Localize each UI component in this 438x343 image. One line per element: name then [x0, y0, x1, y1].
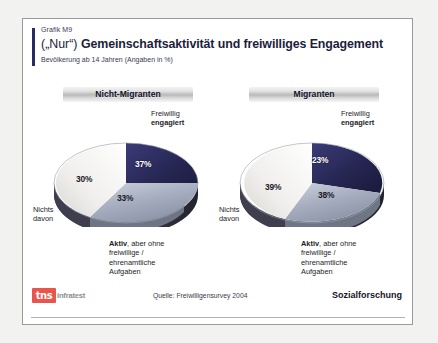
- callout-aktiv-rest: , aber ohne: [127, 239, 164, 248]
- page-title-main: Gemeinschaftsaktivität und freiwilliges …: [81, 37, 383, 51]
- callout-line-2: davon: [219, 214, 240, 223]
- chart-number-label: Grafik M9: [41, 26, 72, 33]
- source-note: Quelle: Freiwilligensurvey 2004: [153, 292, 247, 299]
- callout-aktiv: Aktiv, aber ohne freiwillige / ehrenamtl…: [109, 239, 164, 277]
- slice-value-aktiv: 38%: [318, 190, 334, 200]
- slice-value-freiwillig: 23%: [312, 155, 328, 165]
- tns-logo-text: tns: [36, 291, 53, 301]
- page-subtitle: Bevölkerung ab 14 Jahren (Angaben in %): [41, 56, 173, 63]
- panel-migranten: Migranten: [219, 87, 405, 277]
- pie-svg: [47, 127, 205, 227]
- chart-header: Grafik M9 („Nur“) Gemeinschaftsaktivität…: [32, 26, 406, 70]
- callout-freiwillig-engagiert: Freiwillig engagiert: [151, 109, 184, 128]
- tns-logo-mark: tns: [32, 288, 56, 303]
- callout-line-1: Aktiv, aber ohne: [301, 239, 356, 248]
- callout-line-2: engagiert: [341, 118, 374, 127]
- tns-infratest-logo: tns infratest: [32, 288, 85, 303]
- callout-nichts-davon: Nichts davon: [219, 205, 240, 224]
- callout-aktiv-bold: Aktiv: [109, 239, 127, 248]
- callout-line-2: freiwillige /: [109, 248, 164, 257]
- callout-line-1: Aktiv, aber ohne: [109, 239, 164, 248]
- callout-line-2: freiwillige /: [301, 248, 356, 257]
- slice-value-aktiv: 33%: [117, 193, 133, 203]
- pie-chart-migranten: 23% 38% 39%: [233, 127, 391, 227]
- callout-line-1: Nichts: [33, 205, 54, 214]
- callout-line-4: Aufgaben: [301, 267, 356, 276]
- callout-aktiv-rest: , aber ohne: [319, 239, 356, 248]
- page-title: („Nur“) Gemeinschaftsaktivität und freiw…: [41, 37, 383, 51]
- group-header-label: Migranten: [249, 87, 379, 102]
- callout-line-1: Nichts: [219, 205, 240, 214]
- group-header-migranten: Migranten: [249, 87, 379, 102]
- slice-value-freiwillig: 37%: [135, 159, 151, 169]
- callout-freiwillig-engagiert: Freiwillig engagiert: [341, 109, 374, 128]
- callout-line-1: Freiwillig: [151, 109, 184, 118]
- panel-nicht-migranten: Nicht-Migranten: [33, 87, 219, 277]
- brand-label: Sozialforschung: [332, 290, 402, 300]
- group-header-label: Nicht-Migranten: [63, 87, 193, 102]
- slice-value-nichts: 30%: [76, 174, 92, 184]
- group-header-nicht-migranten: Nicht-Migranten: [63, 87, 193, 102]
- infratest-wordmark: infratest: [57, 291, 85, 300]
- callout-nichts-davon: Nichts davon: [33, 205, 54, 224]
- chart-card: Grafik M9 („Nur“) Gemeinschaftsaktivität…: [22, 18, 413, 325]
- header-accent-bar: [32, 28, 35, 66]
- slice-value-nichts: 39%: [265, 182, 281, 192]
- callout-line-3: ehrenamtliche: [109, 258, 164, 267]
- callout-aktiv: Aktiv, aber ohne freiwillige / ehrenamtl…: [301, 239, 356, 277]
- page-title-quoted: („Nur“): [41, 37, 77, 51]
- callout-line-1: Freiwillig: [341, 109, 374, 118]
- footer-divider: [31, 317, 405, 318]
- callout-line-3: ehrenamtliche: [301, 258, 356, 267]
- pie-svg: [233, 127, 391, 227]
- pie-chart-nicht-migranten: 37% 33% 30%: [47, 127, 205, 227]
- chart-footer: tns infratest Quelle: Freiwilligensurvey…: [23, 280, 412, 324]
- callout-line-2: engagiert: [151, 118, 184, 127]
- callout-line-2: davon: [33, 214, 54, 223]
- callout-line-4: Aufgaben: [109, 267, 164, 276]
- callout-aktiv-bold: Aktiv: [301, 239, 319, 248]
